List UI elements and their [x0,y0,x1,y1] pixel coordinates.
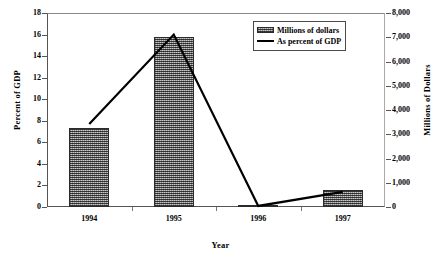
chart-legend: Millions of dollars As percent of GDP [253,21,346,51]
y-axis-left-tick-label: 14 [33,52,41,60]
chart-container: Percent of GDP Millions of Dollars Year … [0,0,441,257]
y-axis-right-tick-mark [386,62,391,63]
y-axis-right-tick-mark [386,37,391,38]
y-axis-right-tick-label: 0 [392,203,396,211]
x-axis-tick-label-1996: 1996 [228,214,288,223]
y-axis-right-tick-mark [386,183,391,184]
y-axis-right-tick-mark [386,134,391,135]
y-axis-left-tick-label: 10 [33,95,41,103]
legend-bar-swatch-icon [257,27,274,33]
legend-line-swatch-icon [257,40,274,42]
y-axis-left-tick-label: 6 [37,138,41,146]
y-axis-right-tick-label: 8,000 [392,9,410,17]
y-axis-right-tick-label: 6,000 [392,58,410,66]
y-axis-right-tick-label: 3,000 [392,130,410,138]
y-axis-right-ticks: 01,0002,0003,0004,0005,0006,0007,0008,00… [392,13,432,207]
x-axis-tick-labels: 1994199519961997 [47,212,385,226]
legend-item-millions-of-dollars: Millions of dollars [257,25,342,35]
y-axis-right-tick-mark [386,159,391,160]
line-path [89,35,343,206]
legend-item-label: Millions of dollars [277,26,339,35]
y-axis-left-tick-mark [42,207,47,208]
legend-item-label: As percent of GDP [277,37,341,46]
y-axis-right-tick-mark [386,86,391,87]
x-axis-tick-label-1997: 1997 [313,214,373,223]
y-axis-left-ticks: 024681012141618 [10,13,41,207]
y-axis-left-tick-label: 12 [33,74,41,82]
y-axis-left-tick-label: 16 [33,31,41,39]
x-axis-tick-label-1994: 1994 [59,214,119,223]
y-axis-left-tick-label: 2 [37,181,41,189]
y-axis-right-tick-mark [386,13,391,14]
y-axis-right-tick-label: 7,000 [392,33,410,41]
y-axis-right-tick-mark [386,207,391,208]
y-axis-right-tick-label: 4,000 [392,106,410,114]
x-axis-tick-mark [216,207,217,211]
y-axis-right-tick-label: 1,000 [392,179,410,187]
x-axis-title: Year [0,240,441,250]
y-axis-left-tick-label: 18 [33,9,41,17]
x-axis-tick-label-1995: 1995 [144,214,204,223]
x-axis-tick-mark [132,207,133,211]
y-axis-left-tick-label: 0 [37,203,41,211]
y-axis-right-tick-label: 5,000 [392,82,410,90]
legend-item-as-percent-of-gdp: As percent of GDP [257,36,342,46]
y-axis-right-tick-mark [386,110,391,111]
x-axis-tick-mark [301,207,302,211]
y-axis-right-tick-label: 2,000 [392,155,410,163]
y-axis-left-tick-label: 8 [37,117,41,125]
y-axis-left-tick-label: 4 [37,160,41,168]
